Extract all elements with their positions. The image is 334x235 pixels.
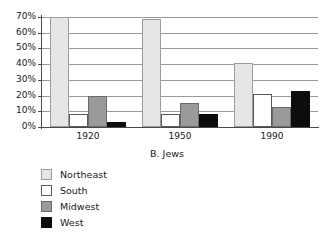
legend-swatch-northeast-icon — [41, 169, 52, 180]
bar-1950-south — [161, 114, 180, 127]
legend-swatch-south-icon — [41, 185, 52, 196]
x-tick-label-1990: 1990 — [242, 131, 302, 141]
legend-item-south[interactable]: South — [41, 182, 107, 198]
chart-legend: NortheastSouthMidwestWest — [41, 166, 107, 230]
chart-title: B. Jews — [0, 148, 334, 159]
y-tick-label-0: 0% — [0, 122, 36, 131]
chart-figure: 0%10%20%30%40%50%60%70% 192019501990 B. … — [0, 0, 334, 235]
gridline-30 — [42, 80, 318, 81]
legend-swatch-west-icon — [41, 217, 52, 228]
bar-1950-midwest — [180, 103, 199, 127]
x-axis-line — [41, 127, 319, 128]
gridline-40 — [42, 64, 318, 65]
bar-1920-south — [69, 114, 88, 127]
y-tick-label-40: 40% — [0, 59, 36, 68]
x-tick-label-1920: 1920 — [58, 131, 118, 141]
bar-1950-northeast — [142, 19, 161, 127]
bar-1920-northeast — [50, 17, 69, 127]
bar-1920-midwest — [88, 96, 107, 127]
y-tick-label-50: 50% — [0, 43, 36, 52]
bar-1990-northeast — [234, 63, 253, 127]
gridline-20 — [42, 96, 318, 97]
y-tick-label-60: 60% — [0, 28, 36, 37]
bar-1990-west — [291, 91, 310, 127]
gridline-70 — [42, 17, 318, 18]
legend-item-west[interactable]: West — [41, 214, 107, 230]
legend-item-midwest[interactable]: Midwest — [41, 198, 107, 214]
bar-1990-south — [253, 94, 272, 127]
legend-item-northeast[interactable]: Northeast — [41, 166, 107, 182]
gridline-50 — [42, 48, 318, 49]
legend-label: Midwest — [60, 201, 99, 212]
y-tick-label-70: 70% — [0, 12, 36, 21]
bar-1990-midwest — [272, 107, 291, 127]
bar-1950-west — [199, 114, 218, 127]
x-tick-label-1950: 1950 — [150, 131, 210, 141]
y-tick-label-10: 10% — [0, 106, 36, 115]
plot-area — [42, 17, 318, 127]
legend-label: South — [60, 185, 88, 196]
legend-label: Northeast — [60, 169, 107, 180]
y-tick-label-20: 20% — [0, 91, 36, 100]
y-axis-line — [41, 15, 42, 129]
y-tick-label-30: 30% — [0, 75, 36, 84]
gridline-60 — [42, 33, 318, 34]
legend-swatch-midwest-icon — [41, 201, 52, 212]
legend-label: West — [60, 217, 83, 228]
